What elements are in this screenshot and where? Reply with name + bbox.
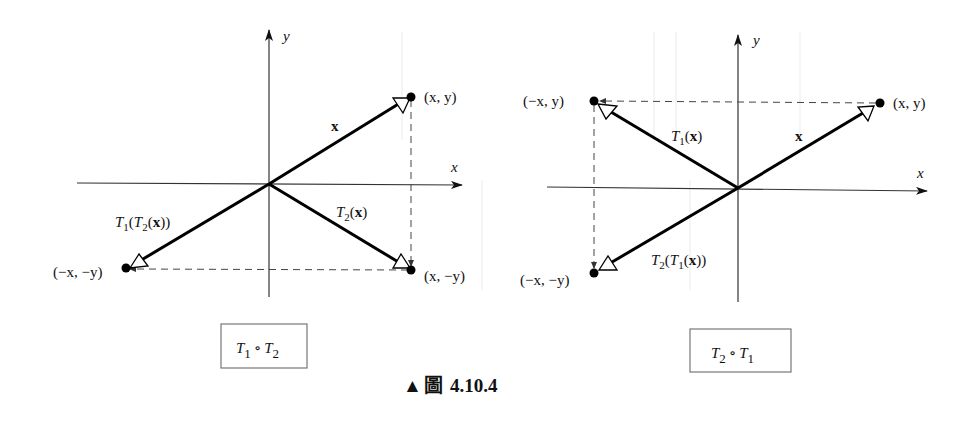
- arrowhead-icon: [598, 104, 617, 119]
- caption-label: 圖: [424, 375, 443, 396]
- figure-caption: ▲ 圖 4.10.4: [403, 375, 498, 396]
- composition-box-left: T1∘T2: [221, 324, 307, 368]
- point-intermediate: [590, 97, 599, 106]
- point-final: [590, 269, 599, 278]
- vector-label-x: x: [795, 128, 803, 144]
- point-label-intermediate: (−x, y): [523, 93, 564, 110]
- vector-x: [269, 103, 400, 184]
- diagram-right: x y (x, y) (−x, y) (−x, −y) x T1(x) T2(T…: [520, 32, 927, 372]
- point-label-intermediate: (x, −y): [424, 268, 465, 285]
- vector-label-T2x: T2(x): [336, 204, 367, 223]
- figure-canvas: x y (x, y) (x, −y) (−x, −y) x T2(x) T1(T…: [0, 0, 972, 422]
- point-original: [876, 99, 885, 108]
- vector-T1x: [606, 109, 738, 188]
- x-axis-label: x: [450, 159, 458, 175]
- point-final: [122, 264, 131, 273]
- y-axis-label: y: [751, 32, 760, 48]
- arrowhead-icon: [599, 256, 617, 270]
- point-label-final: (−x, −y): [520, 272, 569, 289]
- point-original: [407, 93, 416, 102]
- point-label-original: (x, y): [893, 95, 926, 112]
- diagram-left: x y (x, y) (x, −y) (−x, −y) x T2(x) T1(T…: [53, 28, 465, 368]
- vector-label-x: x: [331, 118, 339, 134]
- caption-number: 4.10.4: [450, 375, 498, 396]
- point-label-final: (−x, −y): [53, 264, 102, 281]
- caption-marker-icon: ▲: [403, 375, 422, 396]
- point-label-original: (x, y): [424, 89, 457, 106]
- composition-box-right: T2∘T1: [690, 329, 791, 372]
- y-axis-label: y: [281, 28, 290, 44]
- vector-T2x: [269, 184, 400, 263]
- x-axis-label: x: [916, 165, 924, 181]
- vector-x: [738, 110, 868, 188]
- vector-label-T2T1x: T2(T1(x)): [651, 252, 706, 271]
- bleed-through-ghost: [402, 32, 800, 290]
- vector-label-T1x: T1(x): [671, 128, 702, 147]
- vector-label-T1T2x: T1(T2(x)): [115, 214, 170, 233]
- point-intermediate: [407, 266, 416, 275]
